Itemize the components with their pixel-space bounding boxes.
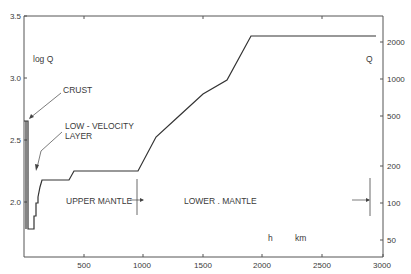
q-tick-1000: 1000 — [387, 75, 405, 84]
crust-arrowhead — [29, 114, 34, 119]
y-left-label: log Q — [33, 54, 54, 64]
upper-mantle-arrowhead — [140, 198, 144, 202]
crust-label: CRUST — [63, 85, 92, 95]
lvl-arrow-a — [41, 132, 62, 151]
q-tick-100: 100 — [387, 199, 401, 208]
y-tick-2.5: 2.5 — [10, 136, 22, 145]
x-tick-2000: 2000 — [253, 261, 271, 270]
y-tick-3.5: 3.5 — [10, 12, 22, 21]
lower-mantle-label: LOWER . MANTLE — [184, 196, 257, 206]
x-label-km: km — [295, 233, 306, 243]
q-tick-50: 50 — [387, 236, 396, 245]
crust-arrow — [30, 93, 61, 118]
upper-mantle-label: UPPER MANTLE — [66, 196, 132, 206]
x-tick-2500: 2500 — [313, 261, 331, 270]
x-tick-1000: 1000 — [133, 261, 151, 270]
y-tick-3.0: 3.0 — [10, 74, 22, 83]
q-tick-2000: 2000 — [387, 38, 405, 47]
x-tick-1500: 1500 — [194, 261, 212, 270]
lvl-label-1: LOW - VELOCITY — [65, 121, 134, 131]
q-depth-chart: 3.5 3.0 2.5 2.0 2000 1000 500 200 100 50… — [0, 0, 411, 274]
x-label-h: h — [268, 233, 273, 243]
lvl-label-2: LAYER — [65, 131, 92, 141]
y-right-label: Q — [366, 54, 373, 64]
x-tick-500: 500 — [77, 261, 91, 270]
lvl-arrowhead — [35, 164, 39, 171]
y-tick-2.0: 2.0 — [10, 198, 22, 207]
x-tick-3000: 3000 — [373, 261, 391, 270]
lower-mantle-arrowhead — [366, 198, 370, 202]
x-axis — [84, 16, 383, 257]
q-tick-500: 500 — [387, 112, 401, 121]
q-tick-200: 200 — [387, 162, 401, 171]
